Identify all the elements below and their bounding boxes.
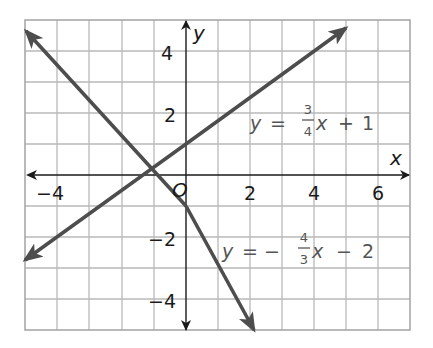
equation-label-line2: y = − 4 3 x − 2 <box>221 230 374 267</box>
coordinate-plane: 4 2 −2 −4 −4 2 4 6 O y x y = 3 4 x + 1 y… <box>0 0 433 348</box>
svg-text:x: x <box>311 240 324 262</box>
svg-text:4: 4 <box>304 124 312 139</box>
x-tick-2: 2 <box>244 182 256 204</box>
svg-text:4: 4 <box>300 230 308 245</box>
svg-text:1: 1 <box>362 112 374 134</box>
svg-text:−: − <box>264 240 280 262</box>
svg-text:=: = <box>270 112 286 134</box>
svg-text:+: + <box>338 112 354 134</box>
equation-label-line1: y = 3 4 x + 1 <box>249 102 374 139</box>
x-tick-neg4: −4 <box>36 182 64 204</box>
y-axis-label: y <box>192 21 206 45</box>
svg-text:2: 2 <box>362 240 374 262</box>
y-tick-neg4: −4 <box>148 290 176 312</box>
origin-label: O <box>172 178 188 202</box>
svg-text:=: = <box>242 240 258 262</box>
y-tick-2: 2 <box>164 104 176 126</box>
svg-text:−: − <box>336 240 352 262</box>
x-axis-label: x <box>389 146 402 170</box>
svg-text:x: x <box>315 112 328 134</box>
svg-text:3: 3 <box>300 252 308 267</box>
svg-text:y: y <box>221 240 234 262</box>
x-tick-6: 6 <box>372 182 384 204</box>
y-tick-4: 4 <box>161 42 173 64</box>
svg-text:3: 3 <box>304 102 312 117</box>
x-tick-4: 4 <box>308 182 320 204</box>
svg-text:y: y <box>249 112 262 134</box>
y-tick-neg2: −2 <box>148 228 176 250</box>
